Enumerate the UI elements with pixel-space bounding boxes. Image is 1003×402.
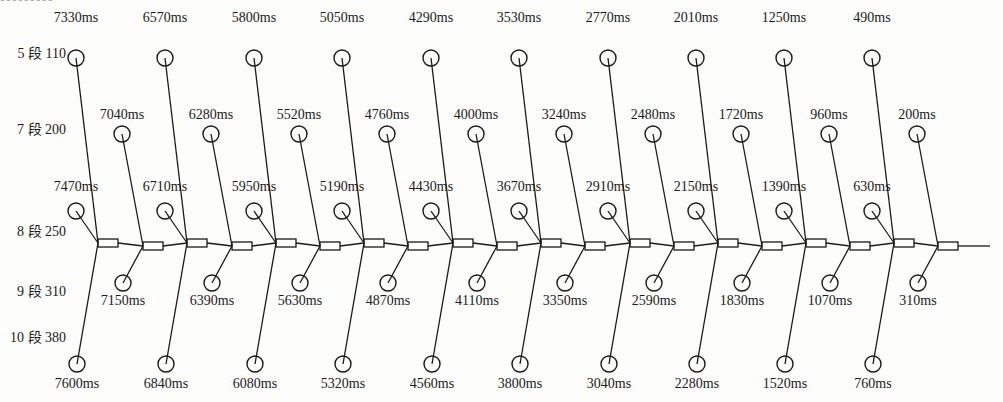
delay-time-label: 3530ms <box>497 10 541 25</box>
detonator-node: 4760ms <box>365 107 409 246</box>
delay-time-label: 7040ms <box>100 107 144 122</box>
downline <box>609 243 630 364</box>
delay-time-label: 7330ms <box>54 10 98 25</box>
row-label: 10 段 380 <box>10 330 66 345</box>
delay-time-label: 2480ms <box>631 107 675 122</box>
delay-connector-box <box>630 239 650 247</box>
detonator-node: 6840ms <box>144 243 188 391</box>
delay-connector-box <box>806 239 826 247</box>
detonator-node: 4000ms <box>454 107 498 246</box>
delay-connector-box <box>497 242 517 250</box>
detonator-node: 2480ms <box>631 107 675 246</box>
detonator-node: 7040ms <box>100 107 144 246</box>
detonator-node: 7600ms <box>55 243 99 391</box>
delay-time-label: 6280ms <box>189 107 233 122</box>
delay-time-label: 490ms <box>853 10 890 25</box>
trunk-segment <box>384 243 408 246</box>
delay-time-label: 4430ms <box>409 179 453 194</box>
delay-time-label: 3240ms <box>542 107 586 122</box>
delay-time-label: 6710ms <box>143 179 187 194</box>
detonator-node: 960ms <box>810 107 850 246</box>
detonator-node: 200ms <box>898 107 938 246</box>
delay-time-label: 5190ms <box>320 179 364 194</box>
downline <box>653 134 674 246</box>
detonator-node: 760ms <box>854 243 894 391</box>
downline <box>343 243 364 364</box>
downline <box>299 134 320 246</box>
delay-time-label: 2280ms <box>675 376 719 391</box>
delay-time-label: 4290ms <box>409 10 453 25</box>
trunk-segment <box>782 243 806 246</box>
delay-connector-box <box>364 239 384 247</box>
delay-time-label: 5520ms <box>277 107 321 122</box>
detonator-node: 4870ms <box>366 246 410 308</box>
detonator-node: 2280ms <box>675 243 719 391</box>
detonator-node: 2150ms <box>674 179 718 243</box>
downline <box>255 243 276 364</box>
delay-time-label: 5800ms <box>232 10 276 25</box>
detonator-node: 5190ms <box>320 179 364 243</box>
detonator-node: 1720ms <box>719 107 763 246</box>
delay-time-label: 960ms <box>810 107 847 122</box>
delay-time-label: 2910ms <box>586 179 630 194</box>
delay-connector-box <box>232 242 252 250</box>
delay-time-label: 310ms <box>899 293 936 308</box>
downline <box>829 134 850 246</box>
downline <box>917 134 938 246</box>
downline <box>432 243 453 364</box>
delay-time-label: 5320ms <box>321 376 365 391</box>
delay-time-label: 2010ms <box>674 10 718 25</box>
detonator-node: 4430ms <box>409 179 453 243</box>
delay-connector-box <box>541 239 561 247</box>
trunk-segment <box>738 243 762 246</box>
detonator-node: 5320ms <box>321 243 365 391</box>
detonator-node: 4560ms <box>410 243 454 391</box>
delay-time-label: 1250ms <box>762 10 806 25</box>
detonator-node: 630ms <box>853 179 894 243</box>
downline <box>476 134 497 246</box>
delay-time-label: 2590ms <box>632 293 676 308</box>
delay-time-label: 7150ms <box>101 293 145 308</box>
delay-connector-box <box>98 239 118 247</box>
downline <box>77 243 98 364</box>
downline <box>564 134 585 246</box>
detonator-nodes: 7330ms7470ms7600ms6570ms6710ms6840ms5800… <box>54 10 938 391</box>
delay-time-label: 760ms <box>854 376 891 391</box>
delay-time-label: 3350ms <box>543 293 587 308</box>
detonator-node: 7150ms <box>101 246 145 308</box>
trunk-segment <box>428 243 453 246</box>
detonator-node: 1390ms <box>762 179 806 243</box>
delay-connector-box <box>143 242 163 250</box>
detonation-network-diagram: 5 段 1107 段 2008 段 2509 段 31010 段 380 733… <box>0 0 1003 402</box>
delay-connector-box <box>187 239 207 247</box>
delay-time-label: 1390ms <box>762 179 806 194</box>
trunk-segment <box>163 243 187 246</box>
detonator-node: 5630ms <box>278 246 322 308</box>
downline <box>520 243 541 364</box>
trunk-segment <box>826 243 850 246</box>
downline <box>166 243 187 364</box>
delay-time-label: 4760ms <box>365 107 409 122</box>
trunk-segment <box>561 243 585 246</box>
delay-time-label: 2770ms <box>586 10 630 25</box>
detonator-node: 2910ms <box>586 179 630 243</box>
detonator-node: 6390ms <box>190 246 234 308</box>
delay-time-label: 4110ms <box>455 293 499 308</box>
row-label: 7 段 200 <box>17 122 66 137</box>
delay-time-label: 3800ms <box>498 376 542 391</box>
delay-time-label: 6390ms <box>190 293 234 308</box>
downline <box>211 134 232 246</box>
detonator-node: 310ms <box>899 246 938 308</box>
delay-connector-box <box>894 239 914 247</box>
delay-connector-box <box>408 242 428 250</box>
trunk-segment <box>870 243 894 246</box>
delay-time-label: 7470ms <box>54 179 98 194</box>
row-label: 8 段 250 <box>17 224 66 239</box>
downline <box>873 243 894 364</box>
delay-time-label: 4560ms <box>410 376 454 391</box>
delay-connector-box <box>762 242 782 250</box>
detonator-node: 3040ms <box>587 243 631 391</box>
delay-time-label: 5950ms <box>232 179 276 194</box>
delay-connector-box <box>585 242 605 250</box>
trunk-segment <box>694 243 718 246</box>
